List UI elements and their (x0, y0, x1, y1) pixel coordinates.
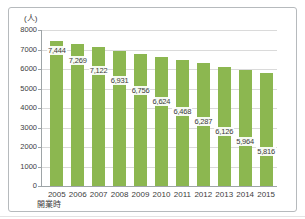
y-tick-label: 4000 (13, 104, 37, 112)
x-axis-note: 開業時 (37, 200, 61, 209)
x-tick-label: 2015 (257, 190, 275, 199)
bar-value-label: 7,269 (68, 56, 88, 65)
y-tick-label: 5000 (13, 85, 37, 93)
y-tick-label: 3000 (13, 124, 37, 132)
x-tick-label: 2014 (236, 190, 254, 199)
y-tick-label: 2000 (13, 143, 37, 151)
bar (155, 57, 168, 186)
bar (134, 54, 147, 186)
bar-value-label: 6,126 (214, 127, 234, 136)
bar (239, 70, 252, 186)
x-tick-label: 2006 (69, 190, 87, 199)
bar (50, 41, 63, 186)
x-tick-label: 2009 (132, 190, 150, 199)
y-axis-line (41, 30, 42, 186)
bar-value-label: 5,964 (235, 137, 255, 146)
y-tick-label: 8000 (13, 26, 37, 34)
bar (176, 60, 189, 186)
x-tick-label: 2005 (48, 190, 66, 199)
bar-value-label: 6,624 (152, 97, 172, 106)
bar-value-label: 6,287 (193, 117, 213, 126)
bar (71, 44, 84, 186)
bar-value-label: 7,122 (89, 66, 109, 75)
gridline (41, 30, 277, 31)
y-tick-label: 6000 (13, 65, 37, 73)
x-tick-label: 2011 (174, 190, 191, 199)
bar-value-label: 6,756 (131, 86, 151, 95)
page-divider (0, 216, 305, 217)
x-tick-label: 2007 (90, 190, 108, 199)
page: (人) 8000700060005000400030002000100007,4… (0, 0, 305, 219)
y-tick-label: 7000 (13, 46, 37, 54)
x-tick-label: 2010 (153, 190, 171, 199)
bar (113, 51, 126, 186)
x-tick-label: 2013 (215, 190, 233, 199)
chart-frame: (人) 8000700060005000400030002000100007,4… (8, 7, 297, 212)
y-tick-label: 0 (13, 182, 37, 190)
x-tick-label: 2012 (194, 190, 212, 199)
bar-value-label: 5,816 (256, 147, 276, 156)
x-axis-line (41, 186, 277, 187)
bar-value-label: 6,468 (172, 107, 192, 116)
bar-value-label: 6,931 (110, 76, 130, 85)
bar-value-label: 7,444 (47, 46, 67, 55)
y-tick-label: 1000 (13, 163, 37, 171)
plot-area: 8000700060005000400030002000100007,44420… (9, 8, 296, 211)
x-tick-label: 2008 (111, 190, 129, 199)
bar (260, 73, 273, 186)
